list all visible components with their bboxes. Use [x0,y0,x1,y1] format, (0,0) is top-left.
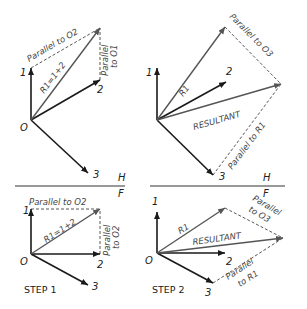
vector-2 [157,82,226,120]
vector-r1 [157,27,225,120]
r1-equation-text: R1=1+2 [42,216,78,244]
parallel-to-o3-text: Parallel to O3 [228,11,276,59]
r1-text: R1 [177,83,192,98]
resultant-text: RESULTANT [192,109,242,132]
vector-2-label: 2 [226,256,232,267]
vector-3 [157,253,213,283]
origin-label: O [20,256,28,267]
vector-diagram: O 1 2 3 Parallel to O2 R1=1+2 Parallel t… [0,0,307,309]
folding-lines: H F H F [15,172,285,199]
origin-label: O [145,255,153,266]
parallel-to-o2-text: Parallel to O2 [29,197,86,207]
h-label-right: H [263,172,271,183]
vector-3-label: 3 [93,169,99,180]
vector-1-label: 1 [152,196,158,207]
step-1-label: STEP 1 [24,284,57,295]
vector-2-label: 2 [226,66,232,77]
vector-3-label: 3 [92,281,98,292]
top-right-panel: 1 2 3 R1 RESULTANT Parallel to O3 Parall… [146,11,281,182]
vector-2-label: 2 [97,84,103,95]
vector-1-label: 1 [146,67,152,78]
vector-3-label: 3 [205,287,211,298]
vector-3-label: 3 [219,171,225,182]
parallel-to-r1-text: Parallel to R1 [226,120,268,171]
origin-label: O [20,122,28,133]
to-o2-text: to O2 [111,226,121,249]
bottom-right-panel: O 1 2 3 R1 RESULTANT Parallel to O3 Para… [145,193,284,298]
bottom-left-panel: O 1 2 3 Parallel to O2 R1=1+2 Parallel t… [20,197,121,295]
parallel-to-r1-line [213,84,281,175]
vector-2-label: 2 [97,259,103,270]
vector-3 [31,120,88,173]
top-left-panel: O 1 2 3 Parallel to O2 R1=1+2 Parallel t… [20,26,119,180]
f-label-left: F [118,188,124,199]
parallel-to-o2-text: Parallel to O2 [25,26,80,63]
vector-1-label: 1 [20,67,26,78]
r1-text: R1 [176,221,191,235]
h-label-left: H [118,172,126,183]
resultant-text: RESULTANT [192,230,243,247]
to-o1-text: to O1 [109,45,119,68]
step-2-label: STEP 2 [152,284,185,295]
vector-3 [31,254,88,285]
